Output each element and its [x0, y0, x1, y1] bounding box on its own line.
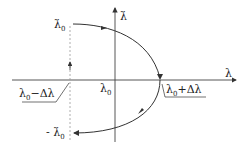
trajectory-arrow-top [101, 26, 107, 30]
label-lambda-dot-0: λ̇0 [54, 18, 65, 33]
label-lambda-0: λ0 [100, 82, 111, 97]
x-axis-label: λ [225, 67, 232, 80]
label-minus-lambda-dot-0: - λ̇0 [46, 126, 65, 141]
label-lambda0-minus-delta: λ0−Δλ [19, 87, 55, 102]
trajectory-arrow-lower [138, 108, 144, 114]
trajectory-upper [73, 24, 160, 78]
trajectory-lower [74, 80, 160, 133]
trajectory-arrow-vertex [157, 74, 163, 80]
label-lambda0-plus-delta: λ0+Δλ [166, 83, 202, 98]
phase-plane-diagram: λ̇0 λ̇ λ λ0 λ0−Δλ λ0+Δλ - λ̇0 [0, 0, 247, 145]
y-axis-label: λ̇ [120, 10, 127, 23]
